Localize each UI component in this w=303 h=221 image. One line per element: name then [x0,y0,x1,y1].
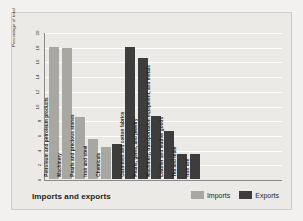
y-tick-label: 20 [36,31,40,36]
bar-imports[interactable] [101,147,111,179]
bar-group[interactable]: Machinery, transportation equipment, and… [151,32,161,179]
legend-swatch-imports [191,191,204,199]
bar-imports[interactable] [49,47,59,179]
bar-group[interactable]: Iron ore [190,32,200,179]
bar-exports[interactable] [190,154,200,179]
legend-item-imports: Imports [191,191,230,199]
chart-title: Imports and exports [32,192,111,201]
bar-group[interactable]: Pearls and precious stones [75,32,85,179]
bar-group[interactable]: Garments and cotton fabrics [125,32,135,179]
bar-imports[interactable] [75,117,85,179]
legend-swatch-exports [239,191,252,199]
y-tick-label: 18 [36,45,40,50]
y-tick-label: 6 [38,135,42,137]
legend: Imports Exports [191,191,279,199]
legend-label-exports: Exports [255,192,279,199]
bar-group[interactable]: Chemicals [101,32,122,179]
bar-imports[interactable] [62,48,72,179]
bar-exports[interactable] [151,116,161,179]
bar-exports[interactable] [112,144,122,179]
chart-footer: Imports and exports Imports Exports [12,185,293,211]
chart-card: Percentage of total 02468101214161820 Pe… [11,12,292,210]
y-tick-label: 0 [38,179,42,181]
y-axis: Percentage of total 02468101214161820 [12,13,44,161]
bar-group[interactable]: Iron and steel [88,32,98,179]
bar-group[interactable]: Tea and mate [177,32,187,179]
y-axis-title: Percentage of total [11,0,16,47]
plot-area: Petroleum and petroleum productsMachiner… [44,33,282,181]
y-tick-label: 8 [38,120,42,122]
bar-group[interactable]: Petroleum and petroleum products [49,32,59,179]
bar-exports[interactable] [125,47,135,179]
y-tick-label: 16 [36,60,40,65]
chart-figure: Percentage of total 02468101214161820 Pe… [0,0,303,221]
legend-item-exports: Exports [239,191,279,199]
legend-label-imports: Imports [207,192,230,199]
bar-exports[interactable] [164,131,174,179]
bar-imports[interactable] [88,139,98,179]
y-tick-label: 2 [38,164,42,166]
bar-exports[interactable] [138,58,148,179]
bar-groups: Petroleum and petroleum productsMachiner… [46,32,283,179]
y-tick-label: 10 [36,104,40,109]
bar-group[interactable]: Pearls, gems, and jewelry [138,32,148,179]
y-tick-label: 4 [38,149,42,151]
y-tick-label: 14 [36,75,40,80]
bar-group[interactable]: Leather and leather goods [164,32,174,179]
bar-group[interactable]: Machinery [62,32,72,179]
bar-exports[interactable] [177,154,187,179]
y-tick-label: 12 [36,89,40,94]
